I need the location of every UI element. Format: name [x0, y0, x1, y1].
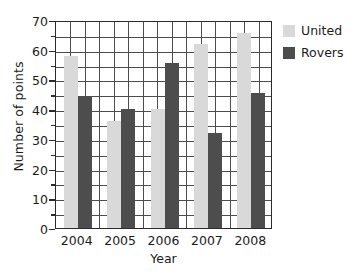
gridline-vertical-3: [99, 22, 100, 228]
gridline-vertical-9: [186, 22, 187, 228]
y-tick-label-60: 60: [32, 43, 48, 58]
bar-united-2008: [237, 33, 251, 228]
y-axis-tick-labels: 010203040506070: [26, 21, 52, 229]
bar-rovers-2008: [251, 93, 265, 228]
y-tick-label-70: 70: [32, 14, 48, 29]
gridline-vertical-6: [143, 22, 144, 228]
y-tick-label-10: 10: [32, 192, 48, 207]
legend-swatch-rovers-icon: [283, 47, 295, 59]
x-tick-label-2004: 2004: [61, 233, 93, 248]
y-tick-label-50: 50: [32, 73, 48, 88]
y-tick-label-30: 30: [32, 132, 48, 147]
bar-united-2006: [151, 109, 165, 228]
gridline-vertical-12: [230, 22, 231, 228]
bar-rovers-2004: [78, 96, 92, 228]
y-tick-label-20: 20: [32, 162, 48, 177]
bar-chart-figure: Number of points 010203040506070 2004200…: [0, 0, 358, 278]
legend-swatch-united-icon: [283, 25, 295, 37]
x-tick-label-2008: 2008: [234, 233, 266, 248]
y-tick-mark-0: [49, 229, 55, 230]
plot-area: [55, 21, 272, 229]
x-axis-tick-labels: 20042005200620072008: [55, 233, 272, 251]
bar-united-2004: [64, 56, 78, 228]
bar-rovers-2006: [165, 63, 179, 228]
bar-rovers-2007: [208, 133, 222, 228]
bar-rovers-2005: [121, 109, 135, 228]
chart-legend: UnitedRovers: [283, 23, 355, 67]
x-axis-title: Year: [55, 251, 272, 266]
bar-united-2005: [107, 121, 121, 228]
legend-label-rovers: Rovers: [301, 45, 344, 60]
y-tick-label-40: 40: [32, 103, 48, 118]
legend-item-rovers: Rovers: [283, 45, 355, 60]
y-axis-title-text: Number of points: [11, 61, 26, 171]
y-tick-label-0: 0: [40, 222, 48, 237]
legend-label-united: United: [301, 23, 342, 38]
x-tick-label-2005: 2005: [104, 233, 136, 248]
legend-item-united: United: [283, 23, 355, 38]
x-tick-label-2007: 2007: [191, 233, 223, 248]
bar-united-2007: [194, 44, 208, 228]
x-tick-label-2006: 2006: [148, 233, 180, 248]
